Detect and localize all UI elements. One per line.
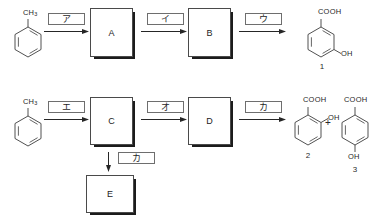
methyl-label-row1: CH3 [23,8,38,17]
product-3-cooh-label: COOH [344,95,367,104]
arrow-step-ka-down [105,152,112,172]
box-e-label: E [107,189,113,199]
reagent-box-step-e: エ [48,101,85,113]
product-1-cooh-label: COOH [318,7,341,16]
arrow-step-a [44,28,89,35]
product-2-benzene-ring [290,105,330,149]
benzene-ring-row2 [10,106,46,148]
reagent-label-step-u: ウ [259,15,268,24]
box-d: D [188,97,231,145]
box-c-label: C [108,116,115,126]
methyl-label-row2: CH3 [23,97,38,106]
arrow-step-ka-right [239,116,286,123]
box-d-label: D [206,116,213,126]
arrow-step-i [141,28,187,35]
reagent-label-step-ka-right: カ [259,103,268,112]
box-a-label: A [108,28,114,38]
reagent-label-step-e: エ [62,103,71,112]
product-2-number: 2 [301,151,315,160]
reagent-label-step-i: イ [161,15,170,24]
reagent-box-step-ka-down: カ [118,152,155,164]
plus-separator: + [325,117,331,128]
box-e: E [86,175,134,213]
reagent-label-step-o: オ [161,103,170,112]
reagent-label-step-a: ア [62,15,71,24]
arrow-step-o [141,116,187,123]
product-2-cooh-label: COOH [303,95,326,104]
box-b: B [188,8,231,57]
benzene-ring-row1 [10,17,46,59]
product-1-number: 1 [315,62,329,71]
box-b-label: B [206,28,212,38]
product-3-oh-label: OH [348,152,360,161]
arrow-step-e [44,116,89,123]
reagent-label-step-ka-down: カ [132,154,141,163]
reagent-box-step-i: イ [147,13,184,25]
product-3-number: 3 [348,165,362,174]
product-3-benzene-ring [337,105,373,157]
arrow-step-u [239,28,286,35]
reaction-scheme-diagram: CH3 ア A イ B [0,0,377,218]
product-1-oh-label: OH [341,49,353,58]
product-1-benzene-ring [303,17,343,61]
reagent-box-step-o: オ [147,101,184,113]
reagent-box-step-a: ア [48,13,85,25]
reagent-box-step-ka-right: カ [245,101,282,113]
box-c: C [90,97,133,145]
reagent-box-step-u: ウ [245,13,282,25]
box-a: A [90,8,133,57]
